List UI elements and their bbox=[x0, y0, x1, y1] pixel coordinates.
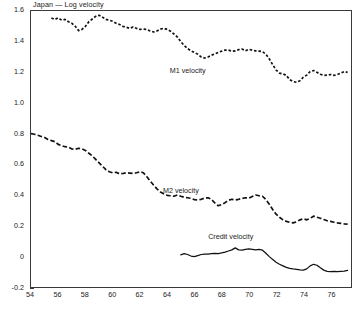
y-tick-label: 0.8 bbox=[0, 130, 24, 137]
y-tick-mark bbox=[30, 288, 34, 289]
chart-figure: Japan — Log velocity 1.61.41.21.00.80.60… bbox=[0, 0, 364, 317]
series-line-m2-velocity bbox=[31, 134, 348, 224]
y-tick-label: 0.2 bbox=[0, 222, 24, 229]
x-tick-label: 56 bbox=[47, 291, 67, 298]
series-label-credit-velocity: Credit velocity bbox=[208, 232, 253, 241]
series-line-credit-velocity bbox=[181, 248, 348, 272]
x-tick-label: 62 bbox=[130, 291, 150, 298]
x-tick-label: 66 bbox=[184, 291, 204, 298]
chart-title: Japan — Log velocity bbox=[33, 0, 104, 9]
y-tick-label: -0.2 bbox=[0, 284, 24, 291]
y-tick-label: 1.4 bbox=[0, 37, 24, 44]
x-tick-label: 64 bbox=[157, 291, 177, 298]
y-tick-label: 1.2 bbox=[0, 68, 24, 75]
x-tick-label: 72 bbox=[267, 291, 287, 298]
x-tick-label: 74 bbox=[294, 291, 314, 298]
x-tick-label: 68 bbox=[212, 291, 232, 298]
x-tick-label: 54 bbox=[20, 291, 40, 298]
series-label-m1-velocity: M1 velocity bbox=[170, 66, 206, 75]
y-tick-label: 0.6 bbox=[0, 160, 24, 167]
x-tick-label: 70 bbox=[239, 291, 259, 298]
y-tick-label: 0 bbox=[0, 253, 24, 260]
plot-area bbox=[30, 10, 352, 288]
series-lines bbox=[31, 11, 351, 287]
x-tick-label: 58 bbox=[75, 291, 95, 298]
y-tick-label: 1.6 bbox=[0, 6, 24, 13]
y-tick-label: 0.4 bbox=[0, 191, 24, 198]
y-tick-label: 1.0 bbox=[0, 99, 24, 106]
x-tick-label: 76 bbox=[321, 291, 341, 298]
series-label-m2-velocity: M2 velocity bbox=[163, 186, 199, 195]
x-tick-label: 60 bbox=[102, 291, 122, 298]
